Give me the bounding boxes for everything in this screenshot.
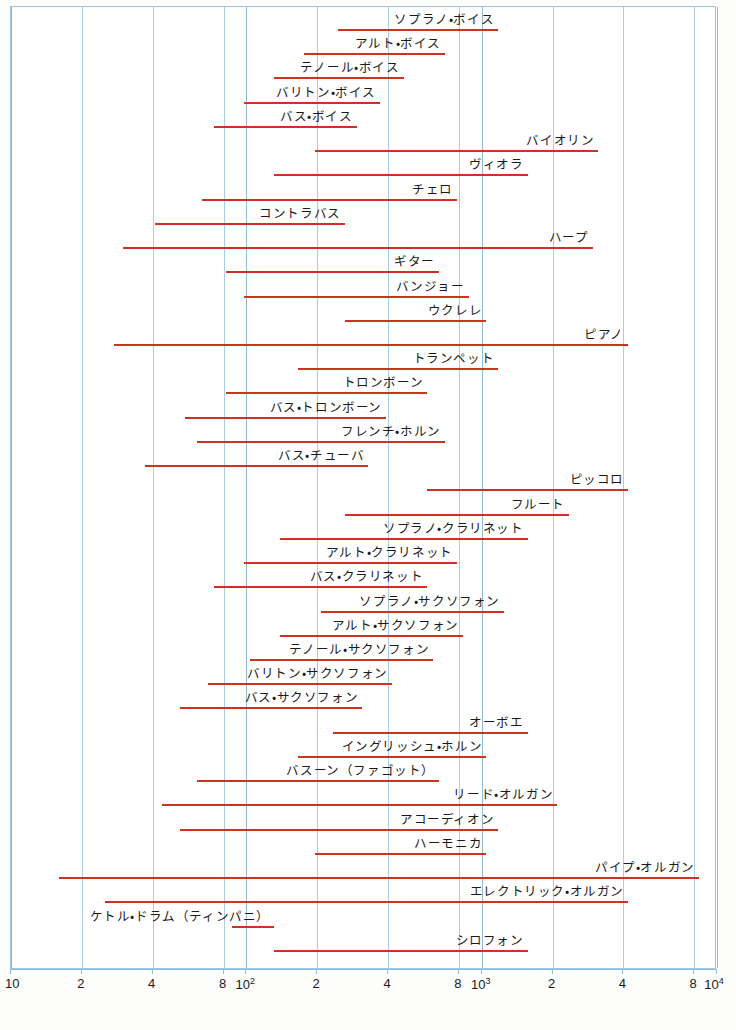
range-bar (180, 707, 363, 709)
range-bar (226, 271, 439, 273)
range-bar (114, 344, 628, 346)
instrument-label: バンジョー (396, 280, 465, 294)
instrument-label: ピアノ (584, 328, 624, 342)
instrument-row: バイオリン (11, 134, 715, 156)
axis-tick (552, 969, 553, 974)
instrument-row: ピッコロ (11, 473, 715, 495)
range-bar (226, 392, 427, 394)
axis-tick (481, 969, 482, 974)
instrument-label: バスーン（ファゴット） (286, 764, 435, 778)
instrument-label: ソプラノ・サクソフォン (359, 595, 500, 609)
instrument-label: バリトン・ボイス (276, 86, 376, 100)
instrument-row: トロンボーン (11, 376, 715, 398)
range-bar (321, 611, 504, 613)
axis-tick-label: 2 (313, 976, 320, 991)
range-bar (338, 29, 498, 31)
axis-tick-label: 2 (548, 976, 555, 991)
instrument-label: フルート (511, 498, 565, 512)
range-bar (298, 756, 487, 758)
instrument-row: トランペット (11, 352, 715, 374)
axis-tick-label: 102 (236, 976, 255, 992)
instrument-label: アコーディオン (400, 813, 494, 827)
instrument-row: テノール・サクソフォン (11, 643, 715, 665)
axis-tick (223, 969, 224, 974)
range-bar (280, 635, 463, 637)
axis-tick-label: 104 (704, 976, 723, 992)
range-bar (244, 562, 457, 564)
range-bar (155, 223, 345, 225)
gridline (717, 7, 718, 968)
instrument-row: フルート (11, 498, 715, 520)
axis-line (10, 969, 716, 970)
axis-tick (716, 969, 717, 974)
instrument-label: シロフォン (456, 934, 524, 948)
instrument-label: イングリッシュ・ホルン (342, 740, 483, 754)
axis-tick-label: 10 (5, 976, 19, 991)
instrument-label: トランペット (413, 352, 495, 366)
instrument-row: バス・チューバ (11, 449, 715, 471)
axis-tick-label: 4 (148, 976, 155, 991)
axis-tick (245, 969, 246, 974)
axis-tick-label: 8 (690, 976, 697, 991)
instrument-row: バス・サクソフォン (11, 691, 715, 713)
instrument-row: バリトン・サクソフォン (11, 667, 715, 689)
instrument-label: テノール・ボイス (300, 61, 400, 75)
range-bar (274, 77, 404, 79)
instrument-label: バス・チューバ (278, 449, 364, 463)
instrument-label: アルト・ボイス (355, 37, 441, 51)
range-bar (244, 102, 380, 104)
instrument-row: フレンチ・ホルン (11, 425, 715, 447)
range-bar (298, 368, 499, 370)
range-bar (274, 174, 528, 176)
range-bar (250, 659, 433, 661)
instrument-label: ヴィオラ (469, 158, 523, 172)
instrument-label: アルト・クラリネット (326, 546, 453, 560)
instrument-row: ケトル・ドラム（ティンパニ） (11, 910, 715, 932)
range-bar (232, 926, 274, 928)
x-axis: 10248102248103248104 (10, 969, 716, 1009)
range-bar (274, 950, 528, 952)
instrument-label: バリトン・サクソフォン (247, 667, 388, 681)
range-bar (244, 296, 468, 298)
instrument-row: アルト・ボイス (11, 37, 715, 59)
instrument-label: フレンチ・ホルン (341, 425, 441, 439)
instrument-row: テノール・ボイス (11, 61, 715, 83)
axis-tick (10, 969, 11, 974)
axis-tick (387, 969, 388, 974)
axis-tick (152, 969, 153, 974)
range-bar (197, 441, 444, 443)
range-bar (315, 150, 598, 152)
instrument-row: バスーン（ファゴット） (11, 764, 715, 786)
instrument-label: ウクレレ (428, 304, 482, 318)
instrument-row: アルト・クラリネット (11, 546, 715, 568)
instrument-label: ギター (394, 255, 435, 269)
instrument-row: バンジョー (11, 280, 715, 302)
instrument-label: ケトル・ドラム（ティンパニ） (90, 910, 270, 924)
instrument-row: アコーディオン (11, 813, 715, 835)
axis-tick (81, 969, 82, 974)
range-bar (105, 901, 628, 903)
range-bar (123, 247, 592, 249)
range-bar (345, 514, 569, 516)
instrument-row: コントラバス (11, 207, 715, 229)
range-bar (315, 853, 486, 855)
instrument-row: パイプ・オルガン (11, 861, 715, 883)
instrument-row: リード・オルガン (11, 788, 715, 810)
instrument-label: バス・サクソフォン (245, 691, 358, 705)
range-bar (59, 877, 699, 879)
axis-tick-label: 4 (383, 976, 390, 991)
instrument-row: イングリッシュ・ホルン (11, 740, 715, 762)
instrument-row: ハーモニカ (11, 837, 715, 859)
instrument-label: バス・ボイス (280, 110, 353, 124)
range-bar (162, 804, 557, 806)
axis-tick-label: 2 (77, 976, 84, 991)
instrument-label: チェロ (412, 183, 453, 197)
range-bar (214, 126, 356, 128)
instrument-label: ピッコロ (570, 473, 624, 487)
range-bar (214, 586, 427, 588)
frequency-range-chart: ソプラノ・ボイスアルト・ボイステノール・ボイスバリトン・ボイスバス・ボイスバイオ… (0, 0, 736, 1030)
axis-tick (622, 969, 623, 974)
range-bar (185, 417, 386, 419)
range-bar (427, 489, 628, 491)
axis-tick (316, 969, 317, 974)
